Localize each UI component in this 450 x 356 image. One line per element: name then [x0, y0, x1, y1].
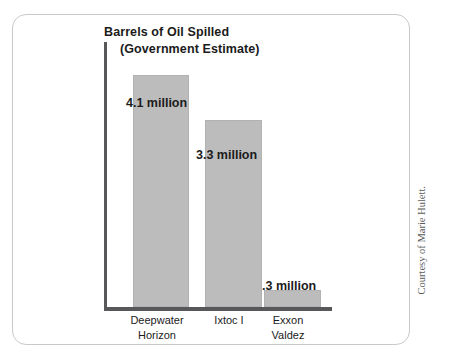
- image-credit: Courtesy of Marie Hulett.: [416, 186, 427, 294]
- bar-value-label-deepwater-horizon: 4.1 million: [126, 96, 187, 110]
- x-axis-line: [104, 307, 332, 311]
- chart-title-line-1: Barrels of Oil Spilled: [104, 24, 334, 41]
- bar-value-label-ixtoc-i: 3.3 million: [196, 148, 257, 162]
- category-label-exxon-valdez: Exxon Valdez: [244, 313, 332, 343]
- bar-value-label-exxon-valdez: .3 million: [262, 279, 316, 293]
- y-axis-line: [104, 42, 107, 309]
- chart-screenshot: Barrels of Oil Spilled (Government Estim…: [0, 0, 450, 356]
- plot-area: [104, 42, 332, 312]
